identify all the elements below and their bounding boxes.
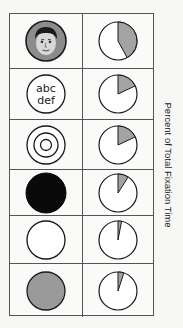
- stimulus-cell: [10, 170, 83, 215]
- pie-cell: [83, 216, 153, 263]
- table-row-white-circle: [10, 215, 153, 263]
- svg-text:def: def: [37, 94, 56, 107]
- gray-circle-icon: [24, 269, 68, 313]
- table-row-face: [10, 14, 153, 68]
- stimulus-fixation-table: abc def: [9, 13, 154, 316]
- pie-chart-text: [96, 72, 140, 116]
- pie-chart-black: [96, 171, 140, 215]
- black-circle-icon: [24, 171, 68, 215]
- stimulus-cell: abc def: [10, 69, 83, 119]
- table-row-gray-circle: [10, 263, 153, 317]
- table-row-concentric-circles: [10, 119, 153, 169]
- axis-label: Percent of Total Fixation Time: [163, 103, 174, 228]
- pie-chart-concentric: [96, 123, 140, 167]
- stimulus-cell: [10, 14, 83, 68]
- concentric-circles-icon: [24, 123, 68, 167]
- stimulus-cell: [10, 120, 83, 169]
- stimulus-cell: [10, 264, 83, 317]
- pie-cell: [83, 69, 153, 119]
- pie-cell: [83, 264, 153, 317]
- pie-chart-white: [96, 218, 140, 262]
- face-icon: [24, 19, 68, 63]
- pie-cell: [83, 14, 153, 68]
- text-stimulus-icon: abc def: [24, 72, 68, 116]
- pie-chart-face: [96, 19, 140, 63]
- white-circle-icon: [24, 218, 68, 262]
- table-row-text: abc def: [10, 68, 153, 119]
- stimulus-cell: [10, 216, 83, 263]
- pie-cell: [83, 120, 153, 169]
- pie-chart-gray: [96, 269, 140, 313]
- table-row-black-circle: [10, 169, 153, 215]
- pie-cell: [83, 170, 153, 215]
